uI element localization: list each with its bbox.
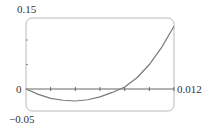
plot-area	[0, 0, 211, 131]
y-top-label: 0.15	[17, 4, 36, 15]
y-bottom-label: −0.05	[9, 114, 34, 125]
x-right-label: 0.012	[177, 84, 202, 95]
y-zero-label: 0	[16, 84, 22, 95]
